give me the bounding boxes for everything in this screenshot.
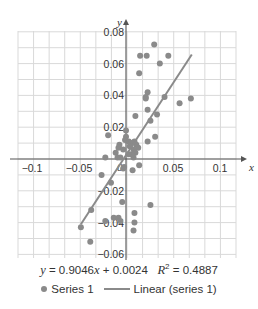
data-point	[87, 239, 93, 245]
eq-r-value: = 0.4887	[170, 264, 218, 276]
grid	[18, 31, 236, 258]
data-point	[130, 167, 136, 173]
regression-equation: y = 0.9046x + 0.0024 R2 = 0.4887	[0, 262, 258, 278]
svg-text:x: x	[248, 161, 254, 173]
data-point	[136, 70, 142, 76]
svg-text:0.02: 0.02	[104, 121, 125, 133]
data-point	[188, 96, 194, 102]
svg-text:0.1: 0.1	[213, 162, 228, 174]
data-point	[131, 228, 137, 234]
data-point	[177, 100, 183, 106]
data-point	[78, 224, 84, 230]
data-point	[152, 134, 158, 140]
data-point	[123, 127, 129, 133]
data-point	[137, 53, 143, 59]
eq-r: R	[157, 263, 165, 277]
data-point	[132, 113, 138, 119]
legend-item-linear: Linear (series 1)	[104, 283, 217, 295]
data-point	[131, 220, 137, 226]
svg-text:−0.05: −0.05	[66, 162, 93, 174]
data-point	[120, 146, 126, 152]
svg-text:0.08: 0.08	[104, 26, 125, 38]
svg-text:0.05: 0.05	[163, 162, 184, 174]
data-point	[102, 154, 108, 160]
data-point	[157, 61, 163, 67]
legend-label-linear: Linear (series 1)	[134, 283, 217, 295]
scatter-chart: xy0−0.1−0.050.050.10.080.060.040.02−0.02…	[0, 0, 258, 260]
data-point	[120, 166, 126, 172]
data-point	[102, 218, 108, 224]
svg-text:0.04: 0.04	[104, 89, 125, 101]
data-point	[145, 107, 151, 113]
data-point	[105, 132, 111, 138]
line-marker-icon	[104, 288, 130, 290]
eq-slope: = 0.9046	[46, 264, 94, 276]
svg-text:−0.02: −0.02	[97, 185, 124, 197]
data-point	[144, 53, 150, 59]
eq-intercept: + 0.0024	[100, 264, 148, 276]
data-point	[151, 42, 157, 48]
svg-text:−0.06: −0.06	[97, 248, 124, 260]
legend: Series 1 Linear (series 1)	[0, 283, 258, 295]
data-point	[165, 53, 171, 59]
data-point	[117, 218, 123, 224]
svg-text:−0.1: −0.1	[22, 162, 43, 174]
dot-marker-icon	[41, 286, 47, 292]
data-point	[143, 96, 149, 102]
data-point	[147, 202, 153, 208]
data-point	[131, 210, 137, 216]
legend-label-series1: Series 1	[51, 283, 93, 295]
data-point	[99, 172, 105, 178]
data-point	[136, 162, 142, 168]
svg-text:0.06: 0.06	[104, 58, 125, 70]
data-point	[119, 199, 125, 205]
legend-item-series1: Series 1	[41, 283, 93, 295]
data-point	[145, 139, 151, 145]
